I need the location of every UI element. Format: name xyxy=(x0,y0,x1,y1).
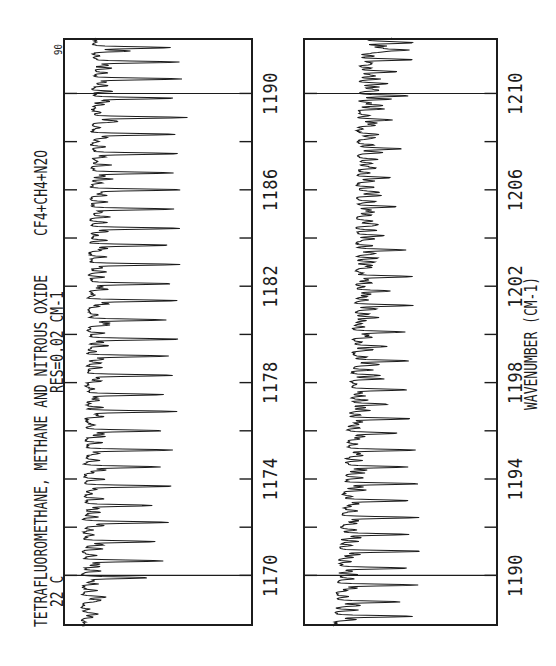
tick-label: 1186 xyxy=(261,150,280,230)
tick-marks xyxy=(305,93,497,575)
spectrum-panel-upper xyxy=(63,38,253,626)
tick-label: 1190 xyxy=(261,53,280,133)
tick-label: 1182 xyxy=(261,246,280,326)
rotated-chart-canvas: TETRAFLUOROMETHANE, METHANE AND NITROUS … xyxy=(0,0,556,666)
scanned-spectrum-page: TETRAFLUOROMETHANE, METHANE AND NITROUS … xyxy=(0,0,556,666)
tick-label: 1190 xyxy=(506,535,525,615)
tick-label: 1174 xyxy=(261,439,280,519)
spectrum-trace xyxy=(81,38,187,626)
tick-label: 1198 xyxy=(506,343,525,423)
tick-label: 1170 xyxy=(261,535,280,615)
spectrum-trace xyxy=(333,38,419,626)
gridlines xyxy=(303,93,498,575)
tick-label: 1202 xyxy=(506,246,525,326)
tick-label: 1178 xyxy=(261,343,280,423)
tick-label: 1194 xyxy=(506,439,525,519)
tick-label: 1210 xyxy=(506,53,525,133)
spectrum-panel-lower xyxy=(303,38,498,626)
spectrum-panel-svg xyxy=(63,38,253,626)
mixture-formula-label: CF4+CH4+N2O xyxy=(33,150,50,236)
spectrum-panel-svg xyxy=(303,38,498,626)
tick-label: 1206 xyxy=(506,150,525,230)
